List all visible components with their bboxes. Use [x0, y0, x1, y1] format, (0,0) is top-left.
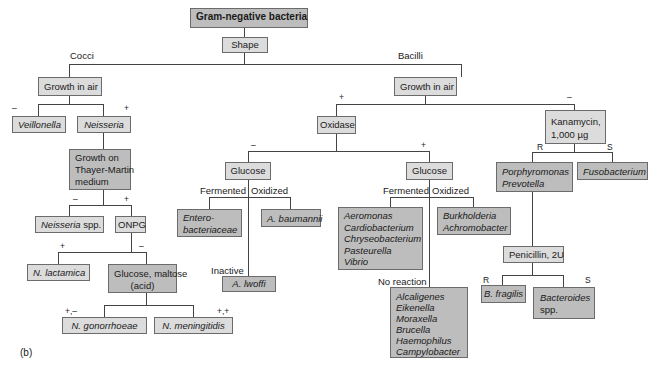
- glucose-left-label: Glucose: [231, 165, 266, 176]
- tm-neg-sign: –: [73, 194, 78, 205]
- alcaligenes-label: Alcaligenes: [396, 291, 462, 302]
- a-baumannii-label: A. baumannii: [267, 213, 322, 224]
- campylobacter-label: Campylobacter: [396, 346, 462, 357]
- porphyromonas-prevotella-node: Porphyromonas Prevotella: [496, 162, 573, 192]
- n-gonorrhoeae-label: N. gonorrhoeae: [71, 320, 137, 331]
- vibrio-label: Vibrio: [344, 256, 417, 268]
- no-reaction-group-node: Alcaligenes Eikenella Moraxella Brucella…: [390, 287, 468, 358]
- b-fragilis-label: B. fragilis: [484, 288, 523, 299]
- tm-pos-sign: +: [124, 194, 129, 205]
- eikenella-label: Eikenella: [396, 302, 462, 313]
- prevotella-label: Prevotella: [502, 178, 567, 190]
- glucose-left-node: Glucose: [225, 162, 271, 180]
- shape-node: Shape: [222, 37, 268, 53]
- moraxella-label: Moraxella: [396, 313, 462, 324]
- right-oxidized-label: Oxidized: [432, 185, 469, 196]
- no-reaction-label: No reaction: [378, 276, 427, 287]
- cocci-growth-label: Growth in air: [44, 81, 98, 92]
- oxidase-label: Oxidase: [320, 119, 355, 130]
- root-node: Gram-negative bacteria: [190, 8, 308, 28]
- thayer-martin-line3: medium: [75, 176, 125, 188]
- penicillin-node: Penicillin, 2U: [503, 246, 564, 263]
- n-meningitidis-node: N. meningitidis: [154, 317, 233, 334]
- fusobacterium-node: Fusobacterium: [577, 162, 648, 180]
- enterobacteriaceae-node: Entero- bacteriaceae: [177, 209, 242, 237]
- n-lactamica-node: N. lactamica: [27, 264, 90, 281]
- bacilli-growth-neg-sign: –: [567, 92, 572, 103]
- onpg-pos-sign: +: [60, 241, 65, 252]
- oxidase-pos-sign: +: [421, 140, 426, 151]
- kanamycin-s-label: S: [607, 142, 613, 153]
- thayer-martin-node: Growth on Thayer-Martin medium: [69, 149, 131, 190]
- veillonella-label: Veillonella: [18, 119, 61, 130]
- oxidase-neg-sign: –: [251, 140, 256, 151]
- neisseria-label: Neisseria: [84, 119, 124, 130]
- glucose-right-label: Glucose: [412, 165, 447, 176]
- brucella-label: Brucella: [396, 324, 462, 335]
- onpg-neg-sign: –: [139, 241, 144, 252]
- right-fermented-label: Fermented: [383, 185, 429, 196]
- n-gonorrhoeae-node: N. gonorrhoeae: [62, 317, 147, 334]
- pasteurella-label: Pasteurella: [344, 245, 417, 257]
- left-oxidized-label: Oxidized: [251, 185, 288, 196]
- neisseria-spp-genus: Neisseria: [41, 219, 81, 230]
- cocci-growth-neg-sign: –: [12, 103, 17, 114]
- kanamycin-node: Kanamycin, 1,000 µg: [545, 110, 606, 144]
- gm-left-signs: +,–: [65, 306, 77, 317]
- glucose-maltose-line1: Glucose, maltose: [114, 268, 171, 280]
- n-lactamica-label: N. lactamica: [33, 267, 85, 278]
- glucose-maltose-line2: (acid): [114, 280, 171, 292]
- cocci-growth-pos-sign: +: [124, 103, 129, 114]
- bacilli-label: Bacilli: [398, 50, 423, 61]
- glucose-maltose-node: Glucose, maltose (acid): [108, 264, 177, 293]
- gm-right-signs: +,+: [217, 306, 229, 317]
- enterobacteriaceae-line2: bacteriaceae: [183, 224, 236, 236]
- aeromonas-label: Aeromonas: [344, 210, 417, 222]
- a-lwoffi-label: A. lwoffi: [232, 278, 265, 289]
- onpg-node: ONPG: [115, 216, 146, 233]
- oxidizers-group-node: Burkholderia Achromobacter: [437, 207, 511, 235]
- n-meningitidis-label: N. meningitidis: [162, 320, 224, 331]
- neisseria-node: Neisseria: [77, 116, 131, 133]
- achromobacter-label: Achromobacter: [443, 222, 505, 234]
- penicillin-label: Penicillin, 2U: [509, 249, 564, 260]
- neisseria-spp-node: Neisseria spp.: [35, 216, 104, 233]
- veillonella-node: Veillonella: [12, 116, 66, 133]
- neisseria-spp-suffix: spp.: [81, 219, 102, 230]
- figure-label: (b): [20, 347, 32, 358]
- glucose-right-node: Glucose: [406, 162, 453, 180]
- root-label: Gram-negative bacteria: [196, 11, 307, 22]
- burkholderia-label: Burkholderia: [443, 210, 505, 222]
- oxidase-node: Oxidase: [317, 116, 356, 134]
- a-baumannii-node: A. baumannii: [261, 209, 321, 227]
- kanamycin-line1: Kanamycin,: [551, 115, 600, 128]
- cocci-growth-in-air-node: Growth in air: [38, 77, 102, 96]
- kanamycin-line2: 1,000 µg: [551, 128, 600, 141]
- bacteroides-label: Bacteroides: [540, 292, 589, 304]
- enterobacteriaceae-line1: Entero-: [183, 212, 236, 224]
- bacteroides-spp-node: Bacteroides spp.: [533, 287, 595, 319]
- kanamycin-r-label: R: [537, 142, 543, 153]
- thayer-martin-line2: Thayer-Martin: [75, 164, 125, 176]
- haemophilus-label: Haemophilus: [396, 335, 462, 346]
- thayer-martin-line1: Growth on: [75, 152, 125, 164]
- onpg-label: ONPG: [118, 219, 146, 230]
- porphyromonas-label: Porphyromonas: [502, 166, 567, 178]
- a-lwoffi-node: A. lwoffi: [222, 276, 276, 292]
- bacteroides-spp-suffix: spp.: [540, 304, 589, 316]
- left-fermented-label: Fermented: [200, 185, 246, 196]
- bacilli-growth-label: Growth in air: [400, 81, 454, 92]
- fusobacterium-label: Fusobacterium: [583, 166, 646, 177]
- cardiobacterium-label: Cardiobacterium: [344, 222, 417, 234]
- fermenters-group-node: Aeromonas Cardiobacterium Chryseobacteri…: [338, 207, 423, 270]
- penicillin-s-label: S: [585, 275, 591, 286]
- cocci-label: Cocci: [70, 50, 94, 61]
- b-fragilis-node: B. fragilis: [481, 285, 526, 303]
- chryseobacterium-label: Chryseobacterium: [344, 233, 417, 245]
- bacilli-growth-pos-sign: +: [339, 92, 344, 103]
- bacilli-growth-in-air-node: Growth in air: [394, 77, 457, 96]
- inactive-label: Inactive: [211, 265, 244, 276]
- shape-label: Shape: [231, 39, 258, 50]
